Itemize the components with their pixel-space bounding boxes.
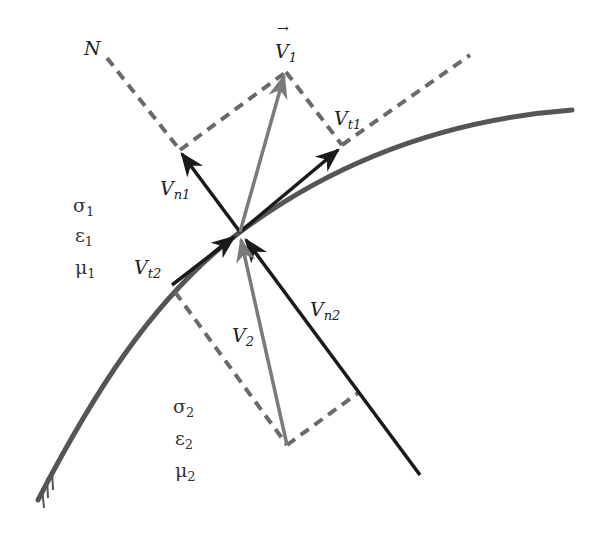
interface-curve bbox=[38, 110, 572, 500]
vn2-vector bbox=[246, 240, 420, 475]
vt2-label: Vt2 bbox=[134, 256, 161, 281]
medium2-properties: σ2 ε2 μ2 bbox=[173, 395, 196, 484]
medium1-properties: σ1 ε1 μ1 bbox=[73, 194, 96, 281]
v1-arrow-icon: → bbox=[277, 20, 289, 36]
vt1-vector bbox=[240, 150, 338, 232]
mu1: μ1 bbox=[75, 256, 96, 281]
vt2-vector bbox=[172, 237, 234, 285]
normal-axis-line bbox=[107, 58, 180, 150]
v1-label: V1 bbox=[275, 40, 297, 65]
dashed-construction-lines bbox=[107, 55, 470, 445]
mu2: μ2 bbox=[175, 459, 196, 484]
normal-axis-label: N bbox=[83, 37, 102, 59]
vt1-label: Vt1 bbox=[334, 107, 361, 132]
epsilon2: ε2 bbox=[175, 427, 193, 452]
epsilon1: ε1 bbox=[75, 224, 93, 249]
sigma1: σ1 bbox=[73, 194, 94, 219]
sigma2: σ2 bbox=[173, 395, 194, 420]
vn1-vector bbox=[182, 154, 240, 232]
vn2-label: Vn2 bbox=[310, 298, 340, 323]
boundary-condition-diagram: N V1 → Vt1 Vn1 Vt2 Vn2 V2 σ1 ε1 μ1 σ2 ε2… bbox=[0, 0, 602, 537]
v2-label: V2 bbox=[232, 324, 254, 349]
vn1-label: Vn1 bbox=[160, 177, 190, 202]
